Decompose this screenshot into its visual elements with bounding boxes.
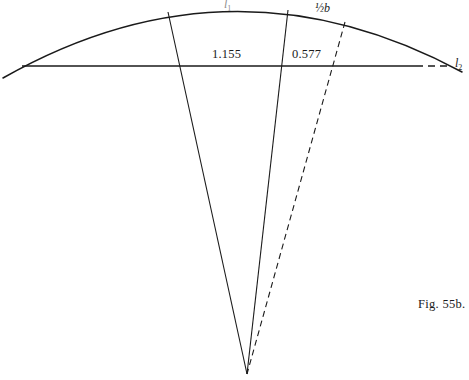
dimension-label-left: 1.155 (212, 48, 241, 61)
radial-line-middle (247, 10, 288, 374)
arc-top-label-l1: l1 (224, 0, 231, 13)
baseline-label-l2: l2 (455, 57, 462, 72)
radial-line-dashed (247, 22, 345, 374)
dimension-label-right: 0.577 (292, 48, 321, 61)
figure-container: l1 ½b l2 1.155 0.577 Fig. 55b. (0, 0, 469, 380)
figure-caption: Fig. 55b. (418, 297, 466, 312)
upper-arc-curve (3, 11, 462, 78)
half-base-label: ½b (315, 2, 330, 14)
